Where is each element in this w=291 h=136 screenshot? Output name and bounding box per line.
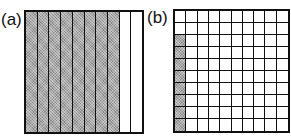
- grid-cell: [265, 107, 276, 119]
- shaded-strip: [73, 12, 85, 132]
- grid-cell: [265, 11, 276, 23]
- grid-cell: [209, 83, 220, 95]
- grid-cell: [209, 119, 220, 131]
- grid-cell: [198, 107, 209, 119]
- shaded-strip: [26, 12, 38, 132]
- grid-cell: [243, 107, 254, 119]
- grid-cell: [198, 11, 209, 23]
- grid-cell: [243, 95, 254, 107]
- shaded-strip: [85, 12, 97, 132]
- grid-cell: [277, 71, 288, 83]
- grid-cell: [175, 11, 186, 23]
- grid-cell: [198, 47, 209, 59]
- grid-cell: [277, 59, 288, 71]
- grid-cell: [186, 23, 197, 35]
- grid-cell: [198, 119, 209, 131]
- grid-cell: [232, 71, 243, 83]
- grid-cell: [243, 23, 254, 35]
- grid-cell: [186, 119, 197, 131]
- grid-cell: [232, 83, 243, 95]
- shaded-grid-cell: [175, 59, 186, 71]
- shaded-grid-cell: [175, 107, 186, 119]
- grid-cell: [198, 71, 209, 83]
- grid-cell: [220, 71, 231, 83]
- grid-cell: [254, 119, 265, 131]
- shaded-strip: [108, 12, 120, 132]
- shaded-strip: [49, 12, 61, 132]
- grid-cell: [254, 35, 265, 47]
- grid-cell: [254, 59, 265, 71]
- shaded-grid-cell: [175, 47, 186, 59]
- grid-cell: [175, 23, 186, 35]
- grid-cell: [232, 47, 243, 59]
- grid-cell: [265, 59, 276, 71]
- shaded-strip: [38, 12, 50, 132]
- grid-cell: [220, 95, 231, 107]
- grid-cell: [232, 11, 243, 23]
- shaded-grid-cell: [175, 95, 186, 107]
- grid-cell: [220, 11, 231, 23]
- panel-a-strips-diagram: [24, 10, 144, 134]
- grid-cell: [232, 107, 243, 119]
- grid-cell: [254, 71, 265, 83]
- grid-cell: [209, 59, 220, 71]
- grid-cell: [220, 83, 231, 95]
- grid-cell: [220, 59, 231, 71]
- grid-cell: [209, 95, 220, 107]
- grid-cell: [243, 119, 254, 131]
- grid-cell: [186, 107, 197, 119]
- grid-cell: [198, 59, 209, 71]
- grid-cell: [265, 95, 276, 107]
- grid-cell: [232, 119, 243, 131]
- shaded-strip: [61, 12, 73, 132]
- grid-cell: [277, 83, 288, 95]
- grid-cell: [265, 83, 276, 95]
- grid-cell: [254, 11, 265, 23]
- grid-cell: [254, 83, 265, 95]
- grid-cell: [265, 47, 276, 59]
- panel-a-label: (a): [1, 11, 22, 28]
- grid-cell: [198, 35, 209, 47]
- grid-cell: [220, 47, 231, 59]
- grid-cell: [277, 119, 288, 131]
- grid-cell: [220, 107, 231, 119]
- grid-cell: [243, 11, 254, 23]
- grid-cell: [277, 95, 288, 107]
- panel-b-label: (b): [147, 9, 168, 26]
- grid-cell: [243, 35, 254, 47]
- grid-cell: [209, 47, 220, 59]
- shaded-grid-cell: [175, 71, 186, 83]
- grid-cell: [209, 23, 220, 35]
- grid-cell: [186, 47, 197, 59]
- grid-cell: [209, 107, 220, 119]
- grid-cell: [186, 59, 197, 71]
- grid-cell: [186, 71, 197, 83]
- grid-cell: [198, 95, 209, 107]
- grid-cell: [198, 23, 209, 35]
- grid-cell: [277, 107, 288, 119]
- grid-cell: [243, 47, 254, 59]
- grid-cell: [254, 23, 265, 35]
- grid-cell: [254, 107, 265, 119]
- unshaded-strip: [131, 12, 142, 132]
- shaded-strip: [96, 12, 108, 132]
- grid-cell: [232, 23, 243, 35]
- grid-cell: [232, 35, 243, 47]
- grid-cell: [265, 119, 276, 131]
- shaded-grid-cell: [175, 119, 186, 131]
- grid-cell: [277, 47, 288, 59]
- grid-cell: [254, 95, 265, 107]
- grid-cell: [186, 95, 197, 107]
- grid-cell: [209, 35, 220, 47]
- grid-cell: [220, 23, 231, 35]
- grid-cell: [243, 71, 254, 83]
- grid-cell: [277, 35, 288, 47]
- grid-cell: [254, 47, 265, 59]
- grid-cell: [277, 23, 288, 35]
- grid-cell: [186, 83, 197, 95]
- grid-cell: [277, 11, 288, 23]
- unshaded-strip: [120, 12, 132, 132]
- grid-cell: [265, 71, 276, 83]
- grid-cell: [186, 11, 197, 23]
- grid-cell: [198, 83, 209, 95]
